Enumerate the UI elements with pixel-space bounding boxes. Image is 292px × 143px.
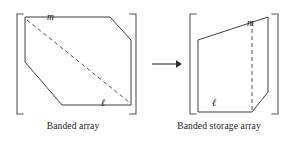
label-l-right: ℓ (212, 97, 216, 108)
left-bracket-icon (17, 14, 23, 114)
label-m-right: m (247, 18, 254, 28)
label-l-left: ℓ (101, 97, 105, 108)
panel-banded-storage-array: m ℓ Banded storage array (146, 0, 292, 143)
banded-storage-array-polygon (198, 17, 268, 112)
right-bracket-icon (272, 14, 278, 114)
label-m-left: m (47, 12, 54, 22)
caption-banded-array: Banded array (0, 121, 146, 131)
banded-storage-array-drawing (146, 0, 292, 120)
banded-array-drawing (0, 0, 146, 120)
panel-banded-array: m ℓ Banded array (0, 0, 146, 143)
caption-banded-storage-array: Banded storage array (146, 121, 292, 131)
figure-banded-array-storage: m ℓ Banded array m ℓ Banded storage arra… (0, 0, 292, 143)
left-bracket-icon (190, 14, 196, 114)
